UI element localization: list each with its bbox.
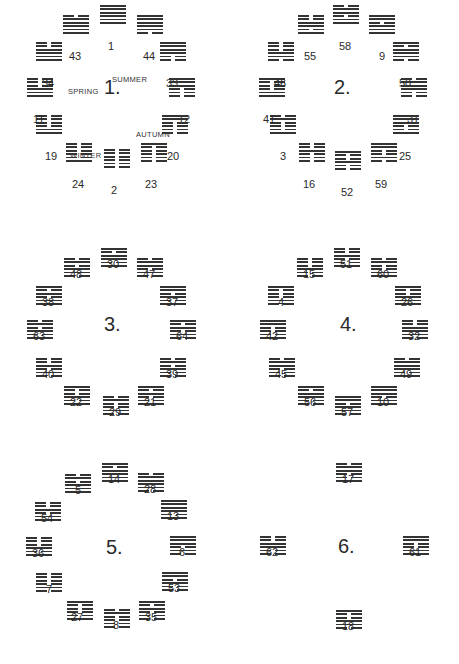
broken-line: [162, 122, 188, 124]
hexagram-number: 27: [71, 611, 83, 623]
broken-line: [141, 150, 167, 152]
hexagram-12-icon: [169, 78, 195, 97]
broken-line: [160, 358, 186, 360]
broken-line: [103, 403, 129, 405]
broken-line: [268, 42, 294, 44]
broken-line: [26, 540, 52, 542]
hexagram-number: 20: [167, 150, 179, 162]
hexagram-50-icon: [393, 42, 419, 61]
solid-line: [393, 115, 419, 117]
solid-line: [371, 146, 397, 148]
broken-line: [66, 150, 92, 152]
hexagram-number: 52: [341, 186, 353, 198]
hexagram-20-icon: [162, 115, 188, 134]
solid-line: [393, 118, 419, 120]
broken-line: [160, 293, 186, 295]
solid-line: [36, 52, 62, 54]
solid-line: [371, 261, 397, 263]
solid-line: [160, 286, 186, 288]
broken-line: [64, 258, 90, 260]
broken-line: [137, 32, 163, 34]
broken-line: [297, 265, 323, 267]
solid-line: [138, 476, 164, 478]
solid-line: [66, 160, 92, 162]
hexagram-58-icon: [333, 5, 359, 24]
solid-line: [160, 361, 186, 363]
solid-line: [170, 543, 196, 545]
hexagram-number: 36: [32, 547, 44, 559]
broken-line: [335, 165, 361, 167]
broken-line: [270, 129, 296, 131]
broken-line: [36, 361, 62, 363]
broken-line: [137, 258, 163, 260]
hexagram-number: 34: [42, 77, 54, 89]
broken-line: [104, 609, 130, 611]
hexagram-number: 55: [304, 50, 316, 62]
solid-line: [336, 466, 362, 468]
solid-line: [298, 22, 324, 24]
hexagram-number: 11: [33, 113, 44, 125]
hexagram-number: 18: [342, 620, 354, 632]
broken-line: [64, 265, 90, 267]
hexagram-number: 42: [266, 330, 278, 342]
broken-line: [335, 168, 361, 170]
solid-line: [36, 132, 62, 134]
hexagram-number: 6: [179, 546, 185, 558]
solid-line: [63, 29, 89, 31]
broken-line: [371, 150, 397, 152]
broken-line: [336, 613, 362, 615]
solid-line: [162, 115, 188, 117]
broken-line: [101, 251, 127, 253]
solid-line: [100, 5, 126, 7]
solid-line: [371, 157, 397, 159]
hexagram-number: 17: [342, 473, 354, 485]
solid-line: [100, 12, 126, 14]
hexagram-number: 23: [145, 178, 157, 190]
hexagram-number: 32: [408, 330, 420, 342]
broken-line: [36, 45, 62, 47]
broken-line: [299, 143, 325, 145]
hexagram-number: 35: [145, 611, 157, 623]
hexagram-43-icon: [63, 15, 89, 34]
broken-line: [162, 125, 188, 127]
hexagram-number: 62: [266, 546, 278, 558]
hexagram-number: 41: [263, 113, 275, 125]
broken-line: [160, 59, 186, 61]
broken-line: [27, 327, 53, 329]
hexagram-number: 38: [42, 296, 54, 308]
broken-line: [268, 59, 294, 61]
broken-line: [298, 29, 324, 31]
hexagram-number: 28: [144, 483, 156, 495]
solid-line: [335, 161, 361, 163]
hexagram-1-icon: [100, 5, 126, 24]
solid-line: [169, 78, 195, 80]
hexagram-number: 56: [304, 396, 316, 408]
broken-line: [371, 153, 397, 155]
broken-line: [334, 251, 360, 253]
broken-line: [298, 389, 324, 391]
hexagram-number: 14: [108, 473, 120, 485]
solid-line: [169, 85, 195, 87]
broken-line: [260, 539, 286, 541]
solid-line: [335, 399, 361, 401]
broken-line: [299, 153, 325, 155]
solid-line: [161, 507, 187, 509]
hexagram-number: 15: [303, 268, 315, 280]
hexagram-number: 37: [166, 296, 178, 308]
broken-line: [141, 153, 167, 155]
circle-label: 5.: [106, 536, 123, 559]
broken-line: [66, 146, 92, 148]
hexagram-number: 44: [143, 50, 155, 62]
solid-line: [369, 18, 395, 20]
solid-line: [63, 25, 89, 27]
solid-line: [63, 22, 89, 24]
broken-line: [66, 143, 92, 145]
broken-line: [268, 49, 294, 51]
broken-line: [298, 15, 324, 17]
broken-line: [104, 166, 130, 168]
solid-line: [369, 25, 395, 27]
broken-line: [160, 365, 186, 367]
broken-line: [66, 157, 92, 159]
broken-line: [395, 293, 421, 295]
solid-line: [101, 248, 127, 250]
